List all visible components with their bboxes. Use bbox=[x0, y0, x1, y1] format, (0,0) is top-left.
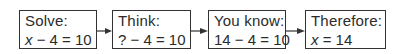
step-expression: x = 14 bbox=[311, 31, 352, 49]
step-expression: ? − 4 = 10 bbox=[118, 31, 186, 49]
expression-rest: − 4 = 10 bbox=[33, 31, 92, 48]
step-label: Think: bbox=[118, 12, 160, 30]
step-box-therefore: Therefore: x = 14 bbox=[305, 10, 386, 49]
expression-rest: ? − 4 = 10 bbox=[118, 31, 186, 48]
expression-rest: = 14 bbox=[319, 31, 353, 48]
step-label: You know: bbox=[214, 12, 284, 30]
step-box-think: Think: ? − 4 = 10 bbox=[112, 10, 191, 49]
step-expression: 14 − 4 = 10 bbox=[214, 31, 290, 49]
step-expression: x − 4 = 10 bbox=[25, 31, 92, 49]
arrow-right-icon bbox=[97, 28, 112, 32]
expression-rest: 14 − 4 = 10 bbox=[214, 31, 290, 48]
step-label: Therefore: bbox=[311, 12, 382, 30]
variable-x: x bbox=[311, 31, 319, 48]
arrow-right-icon bbox=[191, 28, 208, 32]
arrow-right-icon bbox=[286, 28, 305, 32]
step-box-you-know: You know: 14 − 4 = 10 bbox=[208, 10, 286, 49]
variable-x: x bbox=[25, 31, 33, 48]
step-label: Solve: bbox=[25, 12, 68, 30]
step-box-solve: Solve: x − 4 = 10 bbox=[19, 10, 97, 49]
